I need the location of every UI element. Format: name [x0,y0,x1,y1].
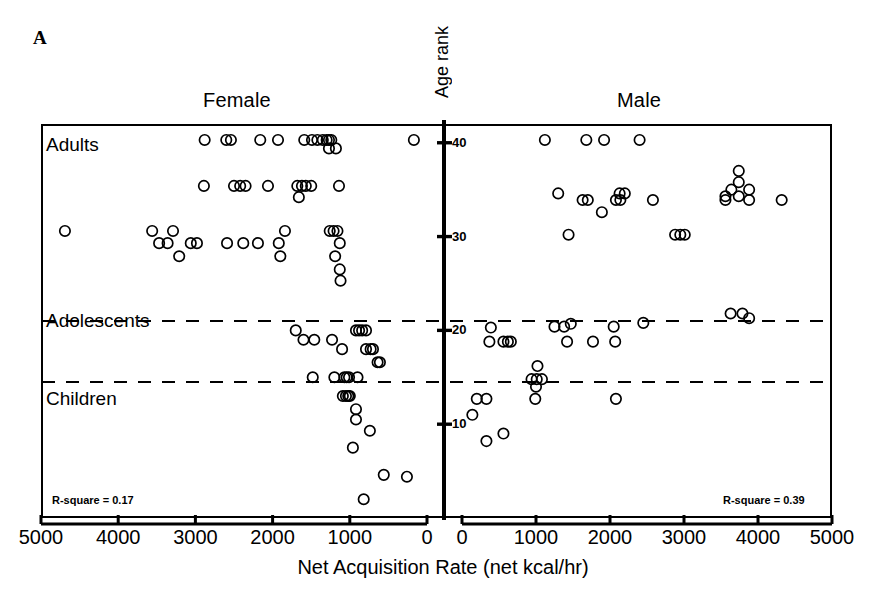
category-label-adolescents: Adolescents [46,310,150,332]
y-tick-label-20: 20 [452,322,466,337]
category-label-children: Children [46,388,117,410]
rsquare-annotation-male: R-square = 0.39 [723,494,805,506]
x-tick-label-female-0: 0 [421,526,432,549]
x-tick-label-male-4000: 4000 [736,526,781,549]
panel-label-a: A [33,27,47,49]
x-tick-label-female-2000: 2000 [250,526,295,549]
x-tick-label-female-5000: 5000 [19,526,64,549]
x-axis-title: Net Acquisition Rate (net kcal/hr) [297,556,588,579]
y-axis-title: Age rank [432,26,453,98]
x-tick-label-male-2000: 2000 [588,526,633,549]
y-tick-label-40: 40 [452,135,466,150]
x-tick-label-male-3000: 3000 [662,526,707,549]
x-tick-label-female-1000: 1000 [328,526,373,549]
x-tick-label-male-1000: 1000 [514,526,559,549]
rsquare-annotation-female: R-square = 0.17 [52,494,134,506]
category-label-adults: Adults [46,134,99,156]
y-tick-label-10: 10 [452,416,466,431]
x-tick-label-female-3000: 3000 [173,526,218,549]
x-tick-label-male-5000: 5000 [810,526,855,549]
x-tick-label-male-0: 0 [456,526,467,549]
y-tick-label-30: 30 [452,229,466,244]
x-tick-label-female-4000: 4000 [96,526,141,549]
male-panel-title: Male [617,89,661,112]
plot-frame [41,124,832,518]
female-panel-title: Female [203,89,271,112]
